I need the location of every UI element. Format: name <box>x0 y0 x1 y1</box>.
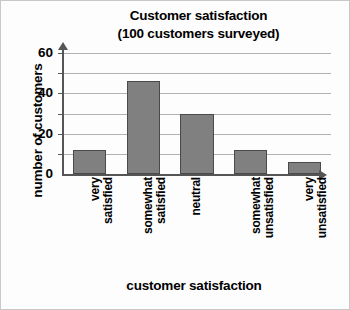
y-axis-tick-label: 40 <box>19 86 53 100</box>
x-axis-category-label: somewhatsatisfied <box>142 177 158 273</box>
bar <box>288 162 321 174</box>
x-axis-category-label: veryunsatisfied <box>303 177 319 273</box>
x-axis-category-labels: verysatisfiedsomewhatsatisfiedneutralsom… <box>63 177 331 275</box>
x-axis-category-label: verysatisfied <box>89 177 105 273</box>
category-label-line: unsatisfied <box>316 177 329 273</box>
chart-subtitle: (100 customers surveyed) <box>56 25 341 43</box>
bar <box>180 114 213 175</box>
plot-area: 0204060 <box>63 53 331 174</box>
chart-title: Customer satisfaction <box>56 7 341 25</box>
gridline <box>63 93 331 94</box>
y-axis-tick-label: 0 <box>19 167 53 181</box>
category-label-line: neutral <box>190 177 203 273</box>
chart-figure: Customer satisfaction (100 customers sur… <box>0 0 350 310</box>
y-axis-tick-label: 60 <box>19 46 53 60</box>
bar <box>234 150 267 174</box>
x-axis-category-label: somewhatunsatisfied <box>250 177 266 273</box>
x-axis-category-label: neutral <box>190 177 206 273</box>
category-label-line: satisfied <box>102 177 115 273</box>
gridline <box>63 53 331 54</box>
category-label-line: very <box>89 177 102 273</box>
y-axis-arrow-icon <box>58 42 68 50</box>
category-label-line: unsatisfied <box>263 177 276 273</box>
x-axis-line <box>62 174 320 176</box>
category-label-line: satisfied <box>155 177 168 273</box>
y-axis-line <box>62 49 64 176</box>
bar <box>73 150 106 174</box>
x-axis-title: customer satisfaction <box>49 278 339 293</box>
bar <box>127 81 160 174</box>
y-axis-tick-label: 20 <box>19 127 53 141</box>
category-label-line: somewhat <box>250 177 263 273</box>
chart-title-block: Customer satisfaction (100 customers sur… <box>56 7 341 43</box>
gridline <box>63 73 331 74</box>
